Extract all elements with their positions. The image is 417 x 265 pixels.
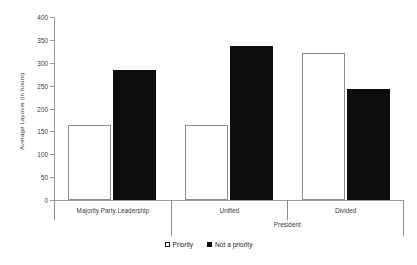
y-axis-title: Average Layover (in hours) [18,47,25,177]
legend-label: Priority [173,241,194,248]
supercategory-label-president: President [171,220,404,236]
y-axis-tick-mark [50,131,54,132]
legend-label: Not a priority [215,241,252,248]
bar-chart: Average Layover (in hours) 0501001502002… [0,0,417,265]
bar-not-a-priority [230,46,273,200]
bar-not-a-priority [347,89,390,200]
chart-legend: PriorityNot a priority [0,241,417,248]
bar-not-a-priority [113,70,156,200]
y-axis-tick-label: 250 [37,82,48,89]
y-axis-tick-label: 400 [37,14,48,21]
plot-area: 050100150200250300350400 [54,17,404,200]
category-label: Majority Party Leadership [54,200,171,220]
category-label: Unified [171,200,288,220]
y-axis-tick-label: 150 [37,128,48,135]
y-axis-tick-mark [50,86,54,87]
y-axis-tick-label: 50 [41,174,48,181]
y-axis-tick-mark [50,109,54,110]
y-axis-tick-label: 200 [37,105,48,112]
bar-priority [68,125,111,200]
y-axis-tick-mark [50,17,54,18]
bar-priority [302,53,345,200]
y-axis-tick-mark [50,177,54,178]
supercategory-label-empty [54,220,171,236]
y-axis-tick-mark [50,40,54,41]
legend-item: Priority [165,241,194,248]
category-labels-tier2: President [54,220,404,236]
y-axis-line [54,17,55,200]
y-axis-tick-mark [50,63,54,64]
filled-square-icon [207,242,212,247]
legend-item: Not a priority [207,241,252,248]
category-labels-tier1: Majority Party LeadershipUnifiedDivided [54,200,404,220]
y-axis-tick-label: 350 [37,36,48,43]
bar-priority [185,125,228,200]
open-square-icon [165,242,170,247]
y-axis-tick-label: 100 [37,151,48,158]
y-axis-tick-mark [50,154,54,155]
y-axis-tick-label: 0 [44,197,48,204]
category-label: Divided [287,200,404,220]
y-axis-tick-label: 300 [37,59,48,66]
